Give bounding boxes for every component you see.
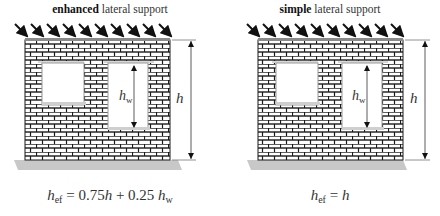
formula-simple: hef = h <box>220 187 440 205</box>
top-band <box>258 38 403 41</box>
lateral-load-arrows <box>15 24 171 36</box>
ground-slab <box>247 160 407 170</box>
hw-label: hw <box>119 88 133 105</box>
top-band <box>25 38 170 41</box>
formula-enhanced: hef = 0.75h + 0.25 hw <box>0 187 220 205</box>
lateral-load-arrows <box>247 24 403 36</box>
ground-slab <box>14 160 182 170</box>
h-label: h <box>410 90 418 107</box>
hw-label: hw <box>352 88 366 105</box>
h-label: h <box>176 90 184 107</box>
panel-enhanced-support: enhanced lateral support <box>0 0 220 216</box>
wall-diagram <box>0 0 220 216</box>
wall-diagram <box>220 0 440 216</box>
panel-simple-support: simple lateral support <box>220 0 440 216</box>
